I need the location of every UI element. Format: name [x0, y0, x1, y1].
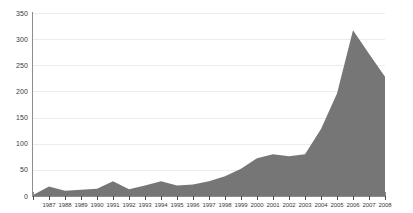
area-chart: 050100150200250300350 198719881989199019…	[0, 0, 413, 213]
x-axis-labels-group: 1987198819891990199119921993199419951996…	[0, 0, 413, 213]
x-axis-tick-label: 2008	[374, 202, 396, 208]
